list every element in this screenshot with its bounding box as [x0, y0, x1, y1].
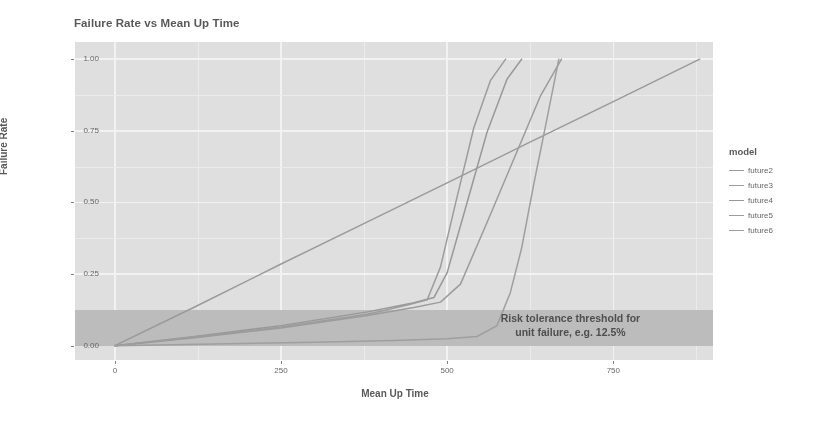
series-line-future6: [115, 59, 559, 345]
legend-item-future5[interactable]: future5: [729, 208, 773, 223]
legend-item-future3[interactable]: future3: [729, 178, 773, 193]
legend-swatch-icon: [729, 211, 744, 220]
legend-swatch-icon: [729, 226, 744, 235]
y-axis-tick-mark: [71, 202, 74, 203]
x-axis-tick-mark: [613, 361, 614, 364]
y-axis-tick-label: 0.00: [59, 341, 99, 350]
legend-swatch-icon: [729, 196, 744, 205]
y-axis-tick-label: 0.50: [59, 197, 99, 206]
series-line-future4: [115, 59, 522, 345]
legend-item-label: future4: [748, 196, 773, 205]
y-axis-tick-label: 1.00: [59, 54, 99, 63]
x-axis-tick-label: 500: [427, 366, 467, 375]
legend-title: model: [729, 146, 773, 157]
y-axis-label: Failure Rate: [0, 118, 9, 175]
series-line-future5: [115, 59, 506, 345]
y-axis-tick-label: 0.75: [59, 126, 99, 135]
legend-item-label: future2: [748, 166, 773, 175]
x-axis-tick-mark: [447, 361, 448, 364]
series-line-future3: [115, 59, 562, 345]
y-axis-tick-label: 0.25: [59, 269, 99, 278]
x-axis-label: Mean Up Time: [0, 388, 790, 399]
legend-item-label: future5: [748, 211, 773, 220]
legend-items: future2future3future4future5future6: [729, 163, 773, 238]
y-axis-tick-mark: [71, 274, 74, 275]
chart-page: Failure Rate vs Mean Up Time Risk tolera…: [0, 0, 815, 421]
legend-item-future2[interactable]: future2: [729, 163, 773, 178]
legend-item-label: future3: [748, 181, 773, 190]
legend-item-label: future6: [748, 226, 773, 235]
x-axis-tick-mark: [281, 361, 282, 364]
legend-item-future4[interactable]: future4: [729, 193, 773, 208]
x-axis-tick-label: 0: [95, 366, 135, 375]
legend-swatch-icon: [729, 181, 744, 190]
y-axis-tick-mark: [71, 346, 74, 347]
y-axis-tick-mark: [71, 59, 74, 60]
series-line-future2: [115, 59, 700, 345]
x-axis-tick-label: 750: [593, 366, 633, 375]
y-axis-tick-mark: [71, 131, 74, 132]
x-axis-tick-label: 250: [261, 366, 301, 375]
legend: model future2future3future4future5future…: [729, 146, 773, 238]
x-axis-tick-mark: [115, 361, 116, 364]
plot-panel: Risk tolerance threshold for unit failur…: [75, 42, 713, 360]
legend-swatch-icon: [729, 166, 744, 175]
legend-item-future6[interactable]: future6: [729, 223, 773, 238]
risk-threshold-annotation: Risk tolerance threshold for unit failur…: [434, 311, 707, 339]
chart-title: Failure Rate vs Mean Up Time: [74, 17, 240, 29]
